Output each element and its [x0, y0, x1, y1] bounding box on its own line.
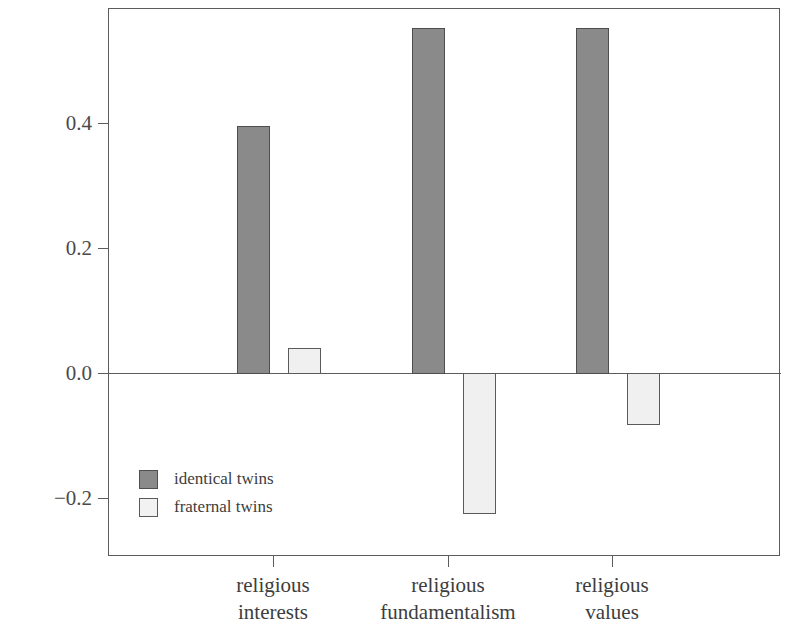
y-tick-label-0.2: 0.2 — [6, 236, 92, 261]
legend-label-identical-twins: identical twins — [174, 469, 274, 489]
legend-item-identical-twins: identical twins — [139, 465, 274, 493]
bar-identical-twins-religious-values — [576, 28, 609, 374]
bar-chart-figure: correlation 0.4 0.2 0.0 −0.2 identical t… — [0, 0, 793, 638]
y-tick-label-0.0: 0.0 — [6, 361, 92, 386]
zero-baseline — [109, 373, 781, 374]
x-tick-mark-religious-values — [612, 556, 613, 567]
y-tick-label-0.4: 0.4 — [6, 111, 92, 136]
legend-swatch-fraternal-twins — [139, 498, 158, 517]
legend-item-fraternal-twins: fraternal twins — [139, 493, 274, 521]
bar-fraternal-twins-religious-fundamentalism — [463, 373, 496, 514]
bar-fraternal-twins-religious-interests — [288, 348, 321, 374]
x-tick-label-religious-values: religious values — [492, 572, 732, 627]
legend: identical twins fraternal twins — [139, 465, 274, 521]
plot-area: identical twins fraternal twins — [108, 8, 780, 556]
x-tick-mark-religious-fundamentalism — [448, 556, 449, 567]
y-tick-label-neg0.2: −0.2 — [6, 486, 92, 511]
x-tick-mark-religious-interests — [273, 556, 274, 567]
legend-label-fraternal-twins: fraternal twins — [174, 497, 273, 517]
bar-identical-twins-religious-fundamentalism — [412, 28, 445, 374]
bar-fraternal-twins-religious-values — [627, 373, 660, 425]
legend-swatch-identical-twins — [139, 470, 158, 489]
bar-identical-twins-religious-interests — [237, 126, 270, 374]
